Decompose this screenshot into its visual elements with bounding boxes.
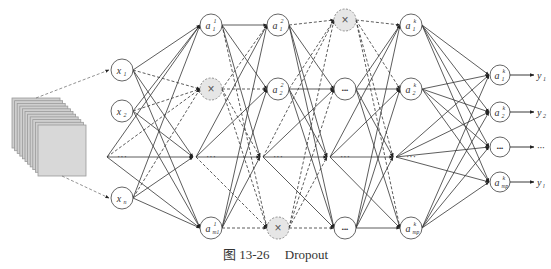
svg-text:a: a bbox=[273, 20, 278, 31]
dropped-node: × bbox=[200, 78, 222, 100]
svg-text:1: 1 bbox=[280, 26, 283, 32]
svg-text:y: y bbox=[536, 70, 542, 81]
input-image-stack bbox=[12, 70, 109, 198]
svg-text:k: k bbox=[414, 221, 417, 227]
output-label: y1 bbox=[510, 70, 546, 83]
dropped-node: × bbox=[334, 9, 356, 31]
svg-text:k: k bbox=[503, 175, 506, 181]
node-input: x2 bbox=[111, 100, 133, 122]
node-hidden4: akmp bbox=[400, 217, 422, 239]
node-hidden1: a11 bbox=[200, 14, 222, 36]
svg-text:k: k bbox=[503, 105, 506, 111]
svg-text:×: × bbox=[274, 221, 281, 235]
svg-text:mp: mp bbox=[413, 229, 420, 235]
svg-text:1: 1 bbox=[502, 76, 505, 82]
figure-title: Dropout bbox=[285, 247, 328, 262]
node-input: xn bbox=[111, 187, 133, 209]
node-output: ak2 bbox=[490, 102, 510, 122]
svg-text:•••: ••• bbox=[342, 87, 348, 93]
svg-text:2: 2 bbox=[281, 18, 284, 24]
svg-text:•••: ••• bbox=[342, 226, 348, 232]
svg-text:a: a bbox=[206, 223, 211, 234]
output-label: ··· bbox=[510, 142, 545, 153]
svg-text:2: 2 bbox=[124, 112, 127, 118]
node-output: akmp bbox=[490, 172, 510, 192]
node-hidden2: a21 bbox=[267, 14, 289, 36]
svg-text:2: 2 bbox=[413, 90, 416, 96]
svg-text:1: 1 bbox=[214, 18, 217, 24]
svg-text:x: x bbox=[116, 65, 122, 76]
svg-text:···: ··· bbox=[206, 151, 216, 162]
node-hidden4: ak2 bbox=[400, 78, 422, 100]
svg-text:2: 2 bbox=[502, 113, 505, 119]
svg-text:a: a bbox=[406, 84, 411, 95]
svg-text:2: 2 bbox=[281, 82, 284, 88]
svg-text:a: a bbox=[206, 20, 211, 31]
dropped-node: × bbox=[267, 217, 289, 239]
output-label: y2 bbox=[510, 107, 546, 120]
svg-text:···: ··· bbox=[340, 151, 350, 162]
svg-text:y: y bbox=[536, 177, 542, 188]
node-output: ak1 bbox=[490, 65, 510, 85]
node-hidden4: ··· bbox=[406, 151, 416, 162]
svg-text:•••: ••• bbox=[497, 145, 503, 151]
svg-text:a: a bbox=[495, 70, 500, 81]
network-connections bbox=[107, 20, 489, 228]
svg-text:1: 1 bbox=[214, 221, 217, 227]
svg-text:1: 1 bbox=[213, 26, 216, 32]
svg-text:2: 2 bbox=[280, 90, 283, 96]
figure-label: 图 13-26 bbox=[223, 247, 270, 262]
svg-text:a: a bbox=[406, 20, 411, 31]
svg-text:1: 1 bbox=[124, 71, 127, 77]
node-hidden3: ••• bbox=[334, 78, 356, 100]
svg-text:···: ··· bbox=[117, 151, 127, 162]
svg-text:···: ··· bbox=[537, 142, 545, 153]
figure-caption: 图 13-26 Dropout bbox=[0, 244, 551, 263]
svg-text:y: y bbox=[536, 107, 542, 118]
svg-text:x: x bbox=[116, 106, 122, 117]
svg-text:x: x bbox=[116, 193, 122, 204]
node-input: x1 bbox=[111, 59, 133, 81]
node-input: ··· bbox=[117, 151, 127, 162]
node-output: ••• bbox=[490, 137, 510, 157]
svg-text:m1: m1 bbox=[213, 229, 220, 235]
svg-text:a: a bbox=[406, 223, 411, 234]
node-hidden3: ••• bbox=[334, 217, 356, 239]
svg-text:l: l bbox=[543, 183, 545, 189]
svg-text:a: a bbox=[273, 84, 278, 95]
svg-text:k: k bbox=[414, 18, 417, 24]
svg-text:k: k bbox=[503, 68, 506, 74]
node-hidden1: ··· bbox=[206, 151, 216, 162]
svg-text:a: a bbox=[495, 177, 500, 188]
svg-text:k: k bbox=[414, 82, 417, 88]
svg-text:···: ··· bbox=[273, 151, 283, 162]
svg-text:mp: mp bbox=[502, 183, 509, 189]
node-hidden2: a22 bbox=[267, 78, 289, 100]
output-label: yl bbox=[510, 177, 545, 190]
svg-text:×: × bbox=[341, 13, 348, 27]
node-hidden2: ··· bbox=[273, 151, 283, 162]
node-hidden3: ··· bbox=[340, 151, 350, 162]
svg-text:···: ··· bbox=[406, 151, 416, 162]
node-hidden4: ak1 bbox=[400, 14, 422, 36]
svg-text:a: a bbox=[495, 107, 500, 118]
svg-text:1: 1 bbox=[413, 26, 416, 32]
svg-text:2: 2 bbox=[543, 113, 546, 119]
dropout-network-diagram: x1x2···xna11×···a1m1a21a22···××•••···•••… bbox=[0, 0, 551, 269]
svg-text:1: 1 bbox=[543, 76, 546, 82]
svg-text:×: × bbox=[207, 82, 214, 96]
svg-text:n: n bbox=[124, 199, 127, 205]
node-hidden1: a1m1 bbox=[200, 217, 222, 239]
